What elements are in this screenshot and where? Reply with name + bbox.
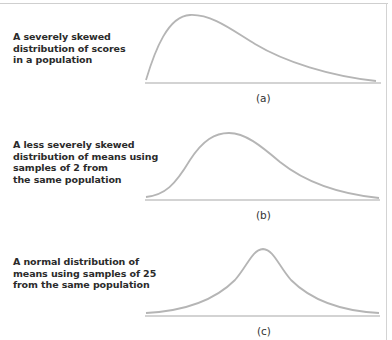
- panel-c-caption: (c): [257, 325, 271, 337]
- curve-line: [146, 249, 379, 313]
- normal-distribution-curve: [0, 0, 392, 340]
